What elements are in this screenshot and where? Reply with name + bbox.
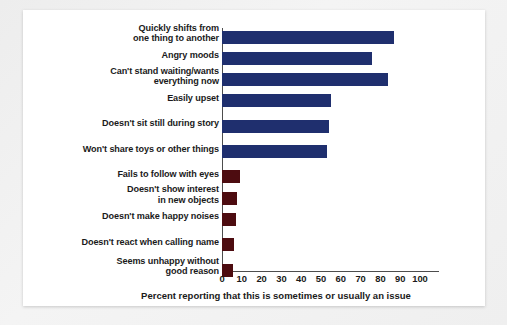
- bar-row-label-line: Can't stand waiting/wants: [29, 66, 219, 76]
- bar-row: Doesn't make happy noises: [23, 211, 485, 232]
- bar-row: Doesn't react when calling name: [23, 237, 485, 258]
- bar-row: Can't stand waiting/wantseverything now: [23, 72, 485, 93]
- bar-row-label: Seems unhappy withoutgood reason: [29, 256, 219, 277]
- bar-row-label: Doesn't show interestin new objects: [29, 184, 219, 205]
- bar-row-label-line: Doesn't make happy noises: [29, 211, 219, 221]
- bar-row: Won't share toys or other things: [23, 144, 485, 165]
- bar-row-label: Doesn't make happy noises: [29, 211, 219, 221]
- bar: [222, 73, 388, 86]
- bar-row-label-line: Seems unhappy without: [29, 256, 219, 266]
- bar-row-label: Angry moods: [29, 50, 219, 60]
- bar-row-label: Doesn't react when calling name: [29, 237, 219, 247]
- bar-row-label-line: Angry moods: [29, 50, 219, 60]
- bar-row-label-line: Easily upset: [29, 93, 219, 103]
- bar: [222, 94, 331, 107]
- bar: [222, 52, 372, 65]
- bar-row: Easily upset: [23, 93, 485, 114]
- bar-row: Doesn't show interestin new objects: [23, 190, 485, 211]
- bar-row-label-line: Doesn't show interest: [29, 184, 219, 194]
- bar-row-label-line: Quickly shifts from: [29, 23, 219, 33]
- bar-row: Quickly shifts fromone thing to another: [23, 29, 485, 50]
- figure-frame: Quickly shifts fromone thing to anotherA…: [0, 0, 507, 325]
- bar-row-label-line: everything now: [29, 76, 219, 86]
- bar-row-label-line: in new objects: [29, 195, 219, 205]
- bar-row-label: Can't stand waiting/wantseverything now: [29, 66, 219, 87]
- bar-row-label: Quickly shifts fromone thing to another: [29, 23, 219, 44]
- bar: [222, 192, 237, 205]
- bar-row-label-line: Doesn't react when calling name: [29, 237, 219, 247]
- bar: [222, 170, 240, 183]
- bar-row-label: Fails to follow with eyes: [29, 169, 219, 179]
- bar: [222, 213, 236, 226]
- x-axis-tick-label: 100: [405, 273, 435, 284]
- bar-row-label-line: one thing to another: [29, 33, 219, 43]
- bar-row-label-line: Won't share toys or other things: [29, 144, 219, 154]
- bar-row-label: Doesn't sit still during story: [29, 118, 219, 128]
- bar-chart: Quickly shifts fromone thing to anotherA…: [23, 10, 485, 306]
- bar: [222, 145, 327, 158]
- bar-row-label-line: Fails to follow with eyes: [29, 169, 219, 179]
- bar-row-label-line: good reason: [29, 266, 219, 276]
- bar: [222, 238, 234, 251]
- bar: [222, 120, 329, 133]
- bar-row: Doesn't sit still during story: [23, 118, 485, 139]
- bar: [222, 31, 394, 44]
- figure-panel: Quickly shifts fromone thing to anotherA…: [23, 10, 485, 306]
- bar-row-label-line: Doesn't sit still during story: [29, 118, 219, 128]
- x-axis-title: Percent reporting that this is sometimes…: [23, 290, 485, 301]
- bar-row-label: Easily upset: [29, 93, 219, 103]
- bar-row-label: Won't share toys or other things: [29, 144, 219, 154]
